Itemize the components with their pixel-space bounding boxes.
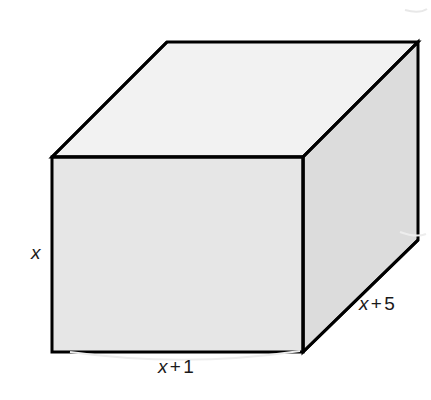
depth-label-constant: 5 bbox=[384, 293, 395, 314]
front-face bbox=[52, 157, 303, 352]
scan-artifact-top-right bbox=[405, 9, 427, 12]
prism-drawing bbox=[0, 0, 431, 400]
depth-label-variable: x bbox=[359, 293, 369, 314]
depth-label-operator: + bbox=[369, 293, 384, 314]
width-label-operator: + bbox=[168, 356, 183, 377]
width-label-variable: x bbox=[158, 356, 168, 377]
height-label: x bbox=[31, 243, 41, 262]
width-label: x+1 bbox=[158, 357, 194, 376]
prism-figure: x x+1 x+5 bbox=[0, 0, 431, 400]
width-label-constant: 1 bbox=[183, 356, 194, 377]
height-label-variable: x bbox=[31, 242, 41, 263]
depth-label: x+5 bbox=[359, 294, 395, 313]
